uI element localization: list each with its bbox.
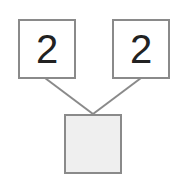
left-connector-line xyxy=(45,78,93,114)
part-left-value: 2 xyxy=(36,29,58,69)
number-bond-diagram: 2 2 xyxy=(0,0,179,181)
right-connector-line xyxy=(93,78,141,114)
whole-answer-box[interactable] xyxy=(64,114,122,174)
part-box-right: 2 xyxy=(112,19,170,79)
part-box-left: 2 xyxy=(18,19,76,79)
part-right-value: 2 xyxy=(130,29,152,69)
